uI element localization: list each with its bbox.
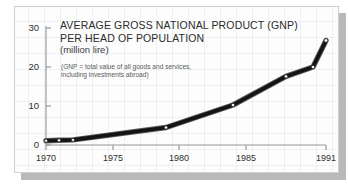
data-point-1990	[311, 65, 314, 68]
y-axis-label-0: 0	[15, 140, 39, 150]
chart-subtitle: (million lire)	[60, 44, 109, 55]
chart-note-line-2: including investments abroad)	[61, 71, 231, 79]
data-point-1970	[45, 139, 48, 142]
chart-title: AVERAGE GROSS NATIONAL PRODUCT (GNP) PER…	[60, 19, 310, 44]
chart-note-line-1: (GNP = total value of all goods and serv…	[61, 63, 231, 71]
x-axis-label-1980: 1980	[159, 153, 199, 163]
series-line-gnp	[46, 41, 326, 141]
y-axis-label-20: 20	[15, 62, 39, 72]
chart-note: (GNP = total value of all goods and serv…	[61, 63, 231, 79]
x-axis-label-1991: 1991	[306, 153, 339, 163]
chart-figure: AVERAGE GROSS NATIONAL PRODUCT (GNP) PER…	[0, 0, 348, 187]
chart-panel: AVERAGE GROSS NATIONAL PRODUCT (GNP) PER…	[14, 6, 339, 173]
data-point-1972	[72, 138, 75, 141]
y-axis-label-30: 30	[15, 23, 39, 33]
chart-title-line-1: AVERAGE GROSS NATIONAL PRODUCT (GNP)	[60, 19, 310, 32]
data-point-1971	[58, 139, 61, 142]
data-point-1988	[284, 75, 287, 78]
x-axis-label-1970: 1970	[26, 153, 66, 163]
x-axis-label-1985: 1985	[226, 153, 266, 163]
x-axis-label-1975: 1975	[93, 153, 133, 163]
data-point-1991	[324, 39, 328, 43]
series-line-shadow	[46, 41, 326, 141]
chart-title-line-2: PER HEAD OF POPULATION	[60, 32, 310, 45]
y-axis-label-10: 10	[15, 101, 39, 111]
data-point-1979	[164, 126, 167, 129]
data-point-1984	[231, 103, 234, 106]
